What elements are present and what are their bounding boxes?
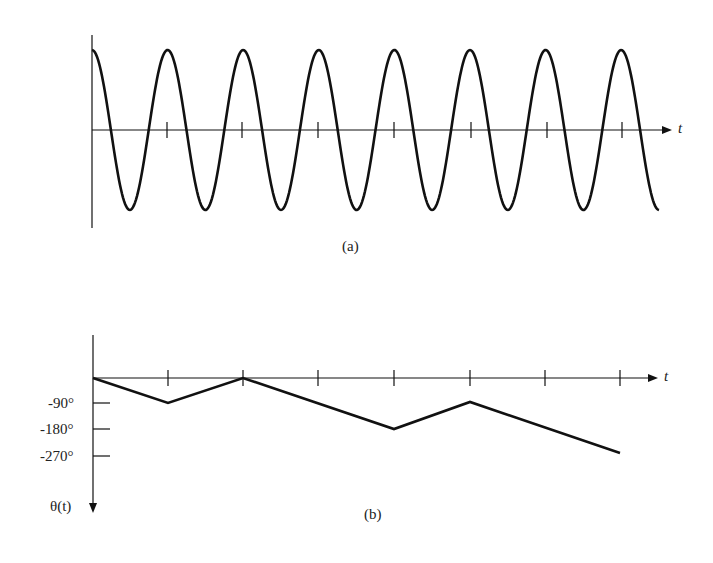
t-label-b: t: [664, 368, 668, 385]
arrow-icon: [648, 374, 658, 382]
ytick-270: -270°: [40, 448, 74, 465]
theta-label: θ(t): [50, 498, 71, 515]
phase-trajectory: [93, 378, 620, 453]
panel-b: [89, 335, 658, 513]
caption-b: (b): [364, 506, 382, 523]
caption-a: (a): [342, 238, 359, 255]
ytick-180: -180°: [40, 421, 74, 438]
t-label-a: t: [678, 120, 682, 137]
ticks-b: [93, 370, 620, 456]
figure: [0, 0, 713, 563]
panel-a: [92, 35, 672, 228]
ytick-90: -90°: [48, 395, 74, 412]
arrow-icon: [662, 126, 672, 134]
arrow-down-icon: [89, 503, 97, 513]
